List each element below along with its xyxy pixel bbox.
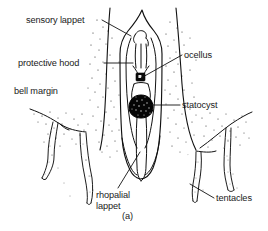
- label-rhopalial-lappet-line1: rhopalial: [96, 190, 152, 201]
- label-tentacles: tentacles: [216, 193, 252, 204]
- label-protective-hood: protective hood: [18, 58, 79, 69]
- label-sensory-lappet: sensory lappet: [26, 15, 84, 26]
- statocyst-blob: [129, 95, 153, 118]
- label-rhopalial-lappet: rhopalial lappet: [96, 190, 152, 212]
- anatomical-figure: sensory lappet protective hood bell marg…: [0, 0, 268, 231]
- label-bell-margin: bell margin: [14, 86, 58, 97]
- label-ocellus: ocellus: [184, 50, 212, 61]
- label-statocyst: statocyst: [182, 100, 217, 111]
- figure-caption: (a): [122, 211, 133, 222]
